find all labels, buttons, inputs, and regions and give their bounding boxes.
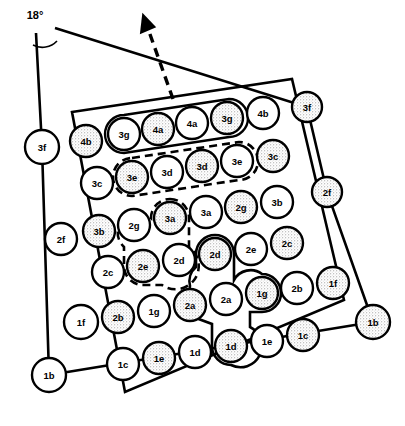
grid-cell[interactable]: 3c xyxy=(257,140,289,172)
grid-cell-label: 1d xyxy=(225,341,236,352)
grid-cell-label: 2b xyxy=(291,283,302,294)
grid-cell[interactable]: 2a xyxy=(210,283,242,315)
frame-node-label: 1b xyxy=(43,370,54,381)
frame-node[interactable]: 3f xyxy=(25,130,59,164)
grid-cell[interactable]: 2e xyxy=(235,233,267,265)
grid-cell-label: 3b xyxy=(93,226,104,237)
grid-cell-label: 2e xyxy=(246,244,257,255)
grid-cell-label: 3d xyxy=(196,161,207,172)
grid-cell-label: 4b xyxy=(257,108,268,119)
grid-cell[interactable]: 3b xyxy=(83,215,115,247)
grid-cell[interactable]: 1d xyxy=(215,330,247,362)
grid-cell-label: 4a xyxy=(187,118,198,129)
frame-node-label: 2f xyxy=(323,187,332,198)
grid-cell[interactable]: 2c xyxy=(92,256,124,288)
frame-node-label: 3f xyxy=(303,102,312,113)
grid-cell[interactable]: 3b xyxy=(261,186,293,218)
grid-cell[interactable]: 2e xyxy=(127,250,159,282)
diagram-canvas: 18° 3f 2f 1b xyxy=(0,0,405,426)
grid-cell[interactable]: 3g xyxy=(108,118,140,150)
grid-cell-label: 1d xyxy=(189,347,200,358)
grid-cell-label: 2a xyxy=(185,300,196,311)
grid-cell[interactable]: 4a xyxy=(142,113,174,145)
grid-cell-label: 2c xyxy=(282,238,293,249)
grid-cell[interactable]: 1c xyxy=(107,348,139,380)
frame-node[interactable]: 1b xyxy=(356,305,390,339)
grid-cell[interactable]: 4a xyxy=(176,107,208,139)
grid-cell[interactable]: 2c xyxy=(271,227,303,259)
grid-cell[interactable]: 3e xyxy=(116,161,148,193)
frame-node[interactable]: 3f xyxy=(292,92,322,122)
grid-cell-label: 1f xyxy=(329,278,338,289)
grid-cell-label: 2e xyxy=(138,261,149,272)
grid-cell-label: 1g xyxy=(256,288,267,299)
grid-cell[interactable]: 2d xyxy=(163,244,195,276)
grid-cell-label: 3a xyxy=(201,207,212,218)
grid-cell-label: 1e xyxy=(154,353,165,364)
grid-cell[interactable]: 3a xyxy=(190,196,222,228)
frame-node[interactable]: 2f xyxy=(45,223,77,255)
grid-cell-label: 4a xyxy=(153,124,164,135)
grid-cell-label: 3c xyxy=(92,178,103,189)
grid-cell-label: 1c xyxy=(118,359,129,370)
grid-cell-label: 4b xyxy=(80,136,91,147)
grid-cell[interactable]: 4b xyxy=(247,97,279,129)
grid-cell-label: 2c xyxy=(103,267,114,278)
frame-node-label: 2f xyxy=(57,234,66,245)
grid-cell-label: 1e xyxy=(262,336,273,347)
grid-cell[interactable]: 3d xyxy=(151,156,183,188)
frame-node[interactable]: 1b xyxy=(32,358,66,392)
grid-cell[interactable]: 2g xyxy=(225,191,257,223)
grid-cell-label: 2d xyxy=(173,255,184,266)
technical-diagram: 18° 3f 2f 1b xyxy=(0,0,405,426)
grid-cell-label: 1g xyxy=(148,306,159,317)
grid-cell-label: 1c xyxy=(298,330,309,341)
grid-cell-label: 3d xyxy=(161,167,172,178)
grid-cell-label: 3b xyxy=(271,197,282,208)
grid-cell[interactable]: 1c xyxy=(287,319,319,351)
frame-node-label: 3f xyxy=(38,142,47,153)
grid-cell[interactable]: 3e xyxy=(221,145,253,177)
grid-cell-label: 3a xyxy=(165,213,176,224)
grid-cell[interactable]: 2g xyxy=(118,209,150,241)
grid-cell-label: 3e xyxy=(127,172,138,183)
grid-cell-label: 1f xyxy=(77,317,86,328)
grid-cell-label: 2g xyxy=(128,220,139,231)
grid-cell-label: 3g xyxy=(221,113,232,124)
grid-cell[interactable]: 3c xyxy=(81,167,113,199)
grid-cell[interactable]: 2d xyxy=(199,238,231,270)
grid-cell[interactable]: 1g xyxy=(246,277,278,309)
grid-cell[interactable]: 1f xyxy=(317,267,349,299)
grid-cell-label: 3g xyxy=(118,129,129,140)
grid-cell-label: 3c xyxy=(268,151,279,162)
grid-cell[interactable]: 1d xyxy=(179,336,211,368)
grid-cell-label: 3e xyxy=(232,156,243,167)
frame-node[interactable]: 2f xyxy=(312,177,342,207)
grid-cell[interactable]: 1e xyxy=(251,325,283,357)
grid-cell[interactable]: 3g xyxy=(211,102,243,134)
grid-cell-label: 2g xyxy=(235,202,246,213)
grid-cell[interactable]: 2a xyxy=(174,289,206,321)
grid-cell[interactable]: 1e xyxy=(143,342,175,374)
grid-cell[interactable]: 2b xyxy=(281,272,313,304)
grid-cell[interactable]: 3d xyxy=(186,150,218,182)
grid-cell[interactable]: 1g xyxy=(138,295,170,327)
grid-cell[interactable]: 3a xyxy=(154,202,186,234)
grid-cell-label: 2b xyxy=(112,312,123,323)
grid-cell[interactable]: 4b xyxy=(70,125,102,157)
grid-cell-label: 2d xyxy=(209,249,220,260)
frame-node-label: 1b xyxy=(367,317,378,328)
grid-cell-label: 2a xyxy=(221,294,232,305)
grid-cell[interactable]: 2b xyxy=(102,301,134,333)
angle-label: 18° xyxy=(27,9,44,21)
grid-cell[interactable]: 1f xyxy=(64,305,98,339)
